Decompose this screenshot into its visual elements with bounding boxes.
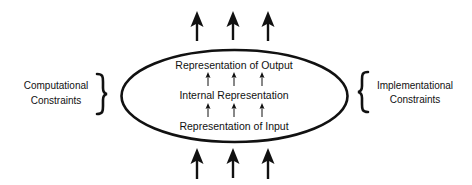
output-arrow-icon (262, 11, 275, 41)
computational-constraints: Computational Constraints (24, 74, 107, 114)
input-to-internal-arrows (206, 103, 265, 117)
levels-diagram: Representation of Output Internal Repres… (0, 0, 472, 185)
small-up-arrow-icon (260, 72, 265, 86)
small-up-arrow-icon (206, 72, 211, 86)
small-up-arrow-icon (260, 103, 265, 117)
small-up-arrow-icon (232, 72, 237, 86)
bottom-arrows (191, 148, 275, 179)
representation-of-input-label: Representation of Input (179, 120, 288, 132)
output-arrow-icon (191, 11, 204, 41)
representation-of-output-label: Representation of Output (175, 59, 292, 71)
input-arrow-icon (227, 148, 240, 178)
implementational-constraints-line1: Implementational (377, 80, 453, 91)
right-brace-icon (97, 74, 107, 114)
small-up-arrow-icon (232, 103, 237, 117)
top-arrows (191, 11, 275, 41)
internal-to-output-arrows (206, 72, 265, 86)
input-arrow-icon (191, 148, 204, 179)
output-arrow-icon (227, 11, 240, 40)
implementational-constraints-line2: Constraints (390, 94, 441, 105)
left-brace-icon (358, 72, 368, 112)
computational-constraints-line1: Computational (24, 80, 88, 91)
input-arrow-icon (262, 148, 275, 179)
small-up-arrow-icon (206, 103, 211, 117)
computational-constraints-line2: Constraints (31, 95, 82, 106)
implementational-constraints: Implementational Constraints (358, 72, 453, 112)
internal-representation-label: Internal Representation (179, 89, 288, 101)
